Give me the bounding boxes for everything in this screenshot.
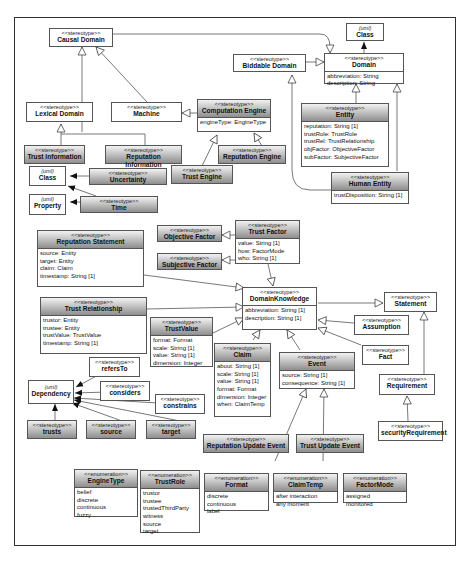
class-name: considers <box>103 389 147 397</box>
trust-engine-class[interactable]: <<stereotype>>Trust Engine <box>171 165 233 184</box>
attribute: value: String [1] <box>153 352 210 360</box>
trusts-class[interactable]: <<stereotype>>trusts <box>27 420 77 439</box>
class-name: Uncertainty <box>92 176 164 184</box>
objective-factor-class[interactable]: <<stereotype>>Objective Factor <box>157 225 222 242</box>
enum-literal: trustedThirdParty <box>143 505 197 513</box>
time-class[interactable]: <<stereotype>>Time <box>80 196 158 213</box>
statement-class[interactable]: <<stereotype>>Statement <box>384 292 437 312</box>
biddable-domain-class[interactable]: <<stereotype>>Biddable Domain <box>233 54 306 72</box>
class-name: trusts <box>30 428 74 436</box>
causal-domain-class[interactable]: <<stereotype>>Causal Domain <box>49 28 113 47</box>
reputation-statement-class[interactable]: <<stereotype>>Reputation Statement sourc… <box>37 230 144 287</box>
engine-type-enumeration[interactable]: <<enumeration>>EngineType belief discret… <box>74 469 138 517</box>
enum-literal: assigned <box>346 493 404 501</box>
attribute: consequence: String [1] <box>282 380 352 388</box>
subjective-factor-class[interactable]: <<stereotype>>Subjective Factor <box>157 253 222 270</box>
class-name: Time <box>83 204 155 212</box>
constrains-class[interactable]: <<stereotype>>constrains <box>155 394 205 414</box>
refers-to-class[interactable]: <<stereotype>>refersTo <box>89 357 140 377</box>
trust-relationship-class[interactable]: <<stereotype>>Trust Relationship trustor… <box>40 297 147 354</box>
enum-literal: monitored <box>346 501 404 509</box>
security-requirement-class[interactable]: <<stereotype>>securityRequirement <box>378 421 443 441</box>
target-class[interactable]: <<stereotype>>target <box>146 420 196 439</box>
attribute-list: engineType: EngineType <box>198 118 270 129</box>
human-entity-class[interactable]: <<stereotype>>Human Entity trustDisposit… <box>331 172 409 204</box>
attribute: subFactor: SubjectiveFactor <box>304 154 386 162</box>
class-name: Biddable Domain <box>236 62 303 70</box>
uml-property-metaclass[interactable]: (uml)Property <box>29 194 66 215</box>
attribute: dimension: Integer <box>153 360 210 368</box>
enumeration-name: ClaimTemp <box>276 481 335 489</box>
class-name: Trust Relationship <box>43 305 144 313</box>
class-name: Class <box>32 174 63 182</box>
requirement-class[interactable]: <<stereotype>>Requirement <box>379 374 435 395</box>
trust-information-class[interactable]: <<stereotype>>Trust Information <box>24 145 85 164</box>
literal-list: belief discrete continuous fuzzy <box>75 488 137 522</box>
lexical-domain-class[interactable]: <<stereotype>>Lexical Domain <box>26 102 93 122</box>
assumption-class[interactable]: <<stereotype>>Assumption <box>354 315 409 335</box>
domain-knowledge-class[interactable]: <<stereotype>>DomainKnowledge abbreviati… <box>242 287 317 330</box>
claim-temp-enumeration[interactable]: <<enumeration>>ClaimTemp after interacti… <box>273 473 338 503</box>
trust-role-enumeration[interactable]: <<enumeration>>TrustRole trustor trustee… <box>140 470 200 533</box>
attribute-list: trustor: Entity trustee: Entity trustVal… <box>41 316 146 350</box>
attribute-list: source: String [1] consequence: String [… <box>280 371 354 390</box>
class-name: Reputation Engine <box>221 153 283 161</box>
literal-list: after interaction any moment <box>274 492 337 511</box>
enumeration-name: TrustRole <box>143 478 197 486</box>
attribute: source: String [1] <box>282 372 352 380</box>
factor-mode-enumeration[interactable]: <<enumeration>>FactorMode assigned monit… <box>343 473 407 503</box>
class-name: Objective Factor <box>160 233 219 241</box>
class-name: Trust Update Event <box>299 442 361 450</box>
attribute: source: Entity <box>40 250 141 258</box>
class-name: Dependency <box>31 390 71 398</box>
attribute-list: format: Format scale: String [1] value: … <box>151 336 212 370</box>
attribute-list: trustDisposition: String [1] <box>332 191 408 202</box>
entity-class[interactable]: <<stereotype>>Entity reputation: String … <box>301 103 389 167</box>
uml-dependency-metaclass[interactable]: (uml)Dependency <box>28 380 74 404</box>
attribute: abbreviation: String <box>327 73 401 81</box>
reputation-update-event-class[interactable]: <<stereotype>>Reputation Update Event <box>203 434 289 453</box>
class-name: Human Entity <box>334 180 406 188</box>
uml-class-metaclass-top[interactable]: (uml)Class <box>346 23 384 41</box>
fact-class[interactable]: <<stereotype>>Fact <box>362 345 409 365</box>
attribute: trustDisposition: String [1] <box>334 192 406 200</box>
reputation-engine-class[interactable]: <<stereotype>>Reputation Engine <box>218 145 286 164</box>
computation-engine-class[interactable]: <<stereotype>>Computation Engine engineT… <box>197 99 271 132</box>
attribute: description: String <box>327 80 401 88</box>
attribute: claim: Claim <box>40 265 141 273</box>
attribute: abbreviation: String [1] <box>245 307 314 315</box>
class-name: Subjective Factor <box>160 261 219 269</box>
attribute: trustValue: TrustValue <box>43 332 144 340</box>
class-name: Fact <box>365 353 406 361</box>
enum-literal: source <box>143 521 197 529</box>
attribute: scale: String [1] <box>153 345 210 353</box>
class-name: Reputation Information <box>108 153 179 168</box>
considers-class[interactable]: <<stereotype>>considers <box>100 381 150 401</box>
trust-value-class[interactable]: <<stereotype>>TrustValue format: Format … <box>150 317 213 367</box>
attribute: trustee: Entity <box>43 325 144 333</box>
attribute: format: Format <box>217 386 268 394</box>
domain-class[interactable]: <<stereotype>>Domain abbreviation: Strin… <box>324 53 404 84</box>
uncertainty-class[interactable]: <<stereotype>>Uncertainty <box>89 168 167 185</box>
class-name: Statement <box>387 300 434 308</box>
reputation-information-class[interactable]: <<stereotype>>Reputation Information <box>105 145 182 164</box>
source-class[interactable]: <<stereotype>>source <box>86 420 136 439</box>
class-name: Claim <box>217 351 268 359</box>
attribute: scale: String [1] <box>217 371 268 379</box>
machine-class[interactable]: <<stereotype>>Machine <box>111 102 182 122</box>
class-name: Assumption <box>357 323 406 331</box>
literal-list: trustor trustee trustedThirdParty witnes… <box>141 489 199 539</box>
enum-literal: discrete <box>207 493 266 501</box>
claim-class[interactable]: <<stereotype>>Claim about: String [1] sc… <box>214 343 271 417</box>
class-name: Class <box>349 31 381 39</box>
attribute-list: abbreviation: String description: String <box>325 72 403 90</box>
class-name: Requirement <box>382 382 432 390</box>
trust-update-event-class[interactable]: <<stereotype>>Trust Update Event <box>296 434 364 453</box>
event-class[interactable]: <<stereotype>>Event source: String [1] c… <box>279 352 355 389</box>
trust-factor-class[interactable]: <<stereotype>>Trust Factor value: String… <box>235 220 300 264</box>
literal-list: assigned monitored <box>344 492 406 511</box>
class-name: Domain <box>327 61 401 69</box>
class-name: Entity <box>304 111 386 119</box>
format-enumeration[interactable]: <<enumeration>>Format discrete continuou… <box>204 473 269 511</box>
uml-class-metaclass-left[interactable]: (uml)Class <box>29 166 66 186</box>
